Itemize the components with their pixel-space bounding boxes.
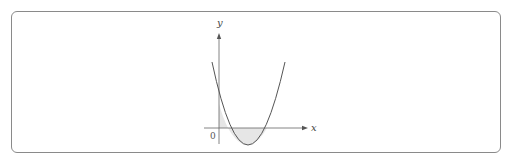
y-axis-label: y — [216, 17, 223, 28]
shaded-region-below — [228, 128, 267, 145]
parabola-graph: y x 0 — [0, 0, 512, 166]
y-axis-arrow-icon — [217, 33, 221, 39]
origin-label: 0 — [210, 131, 216, 141]
x-axis-arrow-icon — [302, 126, 308, 130]
x-axis-label: x — [311, 122, 317, 133]
